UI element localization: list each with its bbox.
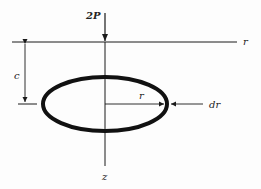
diagram-svg: 2P r c r dr z	[0, 0, 261, 189]
thickness-label: dr	[209, 99, 221, 110]
load-label: 2P	[85, 10, 101, 21]
r-axis-label: r	[243, 36, 249, 47]
depth-label: c	[14, 70, 20, 81]
radius-label: r	[139, 90, 145, 101]
z-axis-label: z	[101, 171, 108, 182]
diagram-canvas: 2P r c r dr z	[0, 0, 261, 189]
